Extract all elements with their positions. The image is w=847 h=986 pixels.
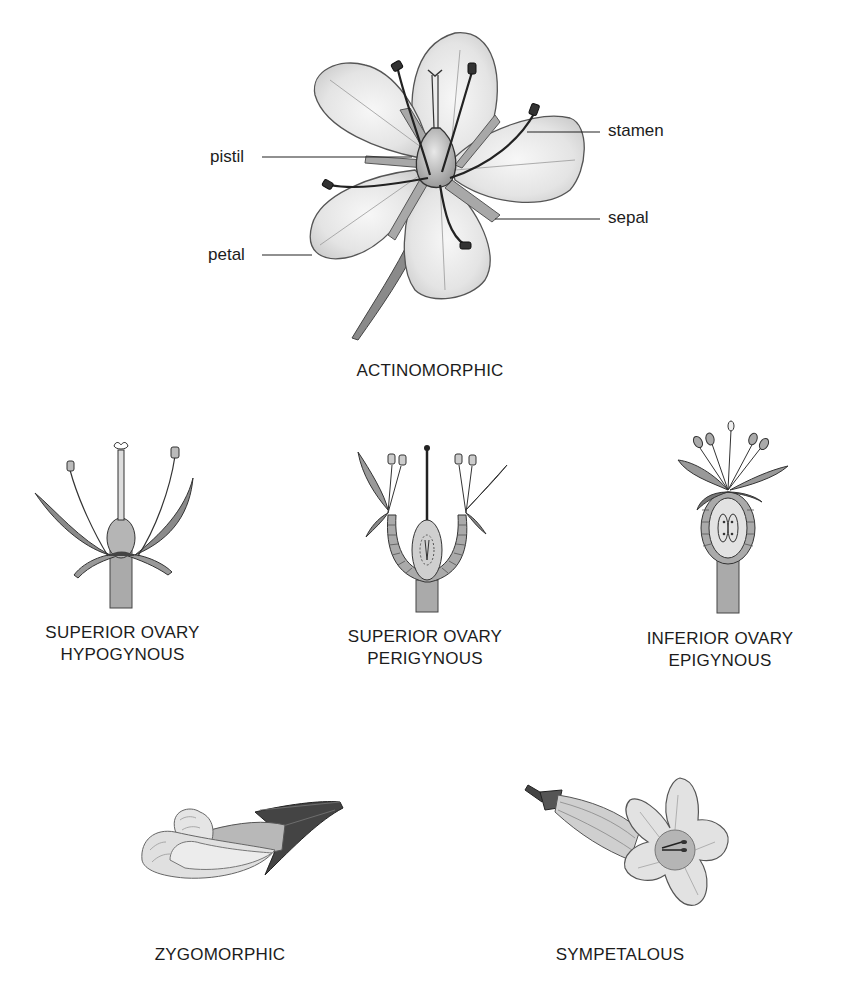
callout-stamen: stamen [608, 121, 664, 141]
actinomorphic-flower-illustration [0, 0, 847, 400]
caption-actinomorphic: ACTINOMORPHIC [280, 360, 580, 382]
hypogynous-figure: SUPERIOR OVARY HYPOGYNOUS [0, 410, 280, 700]
epigynous-flower-illustration [590, 410, 847, 620]
caption-hypogynous-line2: HYPOGYNOUS [0, 644, 245, 666]
zygomorphic-flower-illustration [100, 750, 400, 930]
epigynous-figure: INFERIOR OVARY EPIGYNOUS [590, 410, 847, 700]
hypogynous-flower-illustration [0, 410, 280, 610]
actinomorphic-figure: pistil petal stamen sepal ACTINOMORPHIC [0, 0, 847, 400]
caption-zygomorphic: ZYGOMORPHIC [130, 944, 310, 966]
caption-hypogynous-line1: SUPERIOR OVARY [0, 622, 245, 644]
callout-pistil: pistil [210, 147, 244, 167]
caption-sympetalous: SYMPETALOUS [530, 944, 710, 966]
perigynous-figure: SUPERIOR OVARY PERIGYNOUS [300, 410, 560, 700]
sympetalous-flower-illustration [500, 750, 800, 930]
caption-epigynous-line1: INFERIOR OVARY [610, 628, 830, 650]
callout-sepal: sepal [608, 208, 649, 228]
caption-perigynous-line2: PERIGYNOUS [300, 648, 550, 670]
callout-petal: petal [208, 245, 245, 265]
perigynous-flower-illustration [300, 410, 560, 610]
sympetalous-figure: SYMPETALOUS [500, 750, 800, 986]
zygomorphic-figure: ZYGOMORPHIC [100, 750, 400, 986]
caption-perigynous-line1: SUPERIOR OVARY [300, 626, 550, 648]
caption-epigynous-line2: EPIGYNOUS [610, 650, 830, 672]
